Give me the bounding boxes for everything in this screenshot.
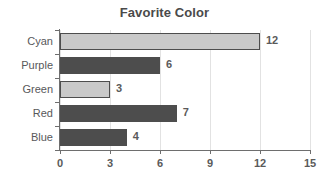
x-axis-tick-mark <box>60 150 61 154</box>
y-axis-tick-mark <box>55 54 60 55</box>
x-axis-tick-label: 6 <box>145 157 175 169</box>
bar-value-label: 4 <box>133 130 139 142</box>
x-axis-tick-mark <box>260 150 261 154</box>
bar-row: 3 <box>60 78 310 102</box>
bar-blue[interactable] <box>60 129 127 146</box>
x-axis-tick-label: 12 <box>245 157 275 169</box>
bar-red[interactable] <box>60 105 177 122</box>
x-axis-tick-label: 9 <box>195 157 225 169</box>
bar-value-label: 7 <box>183 106 189 118</box>
bar-value-label: 12 <box>266 34 278 46</box>
x-axis-tick-mark <box>310 150 311 154</box>
x-axis-line <box>59 150 311 151</box>
bar-row: 6 <box>60 54 310 78</box>
bar-row: 4 <box>60 126 310 150</box>
y-axis-tick-mark <box>55 126 60 127</box>
gridline <box>310 30 311 150</box>
bar-purple[interactable] <box>60 57 160 74</box>
category-label-blue: Blue <box>0 131 53 143</box>
bar-green[interactable] <box>60 81 110 98</box>
x-axis-tick-label: 0 <box>45 157 75 169</box>
x-axis-tick-mark <box>110 150 111 154</box>
chart-title: Favorite Color <box>0 5 329 20</box>
y-axis-tick-mark <box>55 102 60 103</box>
category-label-cyan: Cyan <box>0 35 53 47</box>
bar-chart: Favorite Color 126374 03691215CyanPurple… <box>0 0 329 177</box>
category-label-red: Red <box>0 107 53 119</box>
plot-area: 126374 <box>60 30 310 150</box>
bar-row: 7 <box>60 102 310 126</box>
y-axis-tick-mark <box>55 78 60 79</box>
bar-row: 12 <box>60 30 310 54</box>
category-label-purple: Purple <box>0 59 53 71</box>
bar-value-label: 3 <box>116 82 122 94</box>
x-axis-tick-label: 3 <box>95 157 125 169</box>
x-axis-tick-mark <box>210 150 211 154</box>
category-label-green: Green <box>0 83 53 95</box>
bar-cyan[interactable] <box>60 33 260 50</box>
bar-value-label: 6 <box>166 58 172 70</box>
x-axis-tick-mark <box>160 150 161 154</box>
x-axis-tick-label: 15 <box>295 157 325 169</box>
y-axis-tick-mark <box>55 30 60 31</box>
y-axis-tick-mark <box>55 150 60 151</box>
